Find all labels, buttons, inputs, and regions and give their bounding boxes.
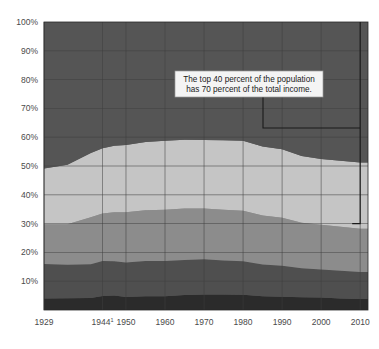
y-axis-tick-label: 10% [21,276,38,286]
x-axis-tick-label: 19441 [92,317,114,328]
x-axis-tick-superscript: 1 [110,317,113,323]
x-axis-tick-label: 2010 [351,317,370,327]
y-axis-tick-label: 30% [21,219,38,229]
y-axis-tick-label: 50% [21,161,38,171]
x-axis-tick-label: 2000 [312,317,331,327]
y-axis-tick-label: 80% [21,75,38,85]
y-axis-tick-label: 100% [16,17,38,27]
y-axis-tick-label: 40% [21,190,38,200]
x-axis-tick-label: 1980 [234,317,253,327]
annotation-line-2: has 70 percent of the total income. [186,85,312,94]
x-axis-tick-label: 1950 [117,317,136,327]
y-axis-tick-label: 70% [21,103,38,113]
plot-area [44,22,368,310]
chart-canvas: 10%20%30%40%50%60%70%80%90%100% 19291944… [0,0,379,349]
y-axis-tick-label: 20% [21,247,38,257]
y-axis-tick-label: 60% [21,132,38,142]
x-axis-tick-label: 1929 [35,317,54,327]
annotation-line-1: The top 40 percent of the population [183,75,315,84]
x-axis-tick-label: 1970 [195,317,214,327]
x-axis-tick-label: 1990 [273,317,292,327]
y-axis-tick-label: 90% [21,46,38,56]
annotation-label: The top 40 percent of the population has… [175,71,323,97]
income-distribution-area-chart: 10%20%30%40%50%60%70%80%90%100% 19291944… [0,0,379,349]
x-axis-tick-label: 1960 [156,317,175,327]
